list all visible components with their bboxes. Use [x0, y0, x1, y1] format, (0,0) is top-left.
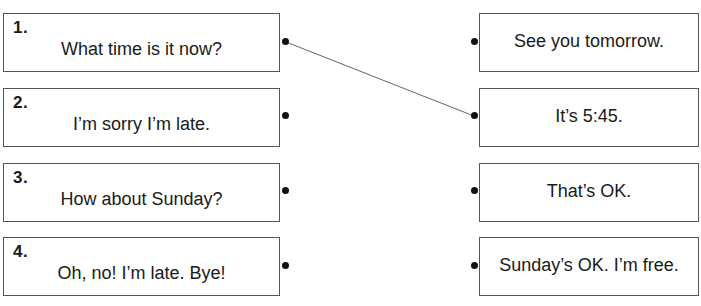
item-number: 2. — [13, 93, 28, 113]
item-text: Oh, no! I’m late. Bye! — [4, 263, 279, 284]
item-number: 3. — [13, 168, 28, 188]
left-item-4: 4. Oh, no! I’m late. Bye! — [3, 237, 280, 296]
left-dot-3[interactable] — [282, 187, 289, 194]
connector-line-1-to-2 — [286, 42, 474, 116]
item-text: How about Sunday? — [4, 189, 279, 210]
left-item-2: 2. I’m sorry I’m late. — [3, 88, 280, 147]
item-text: I’m sorry I’m late. — [4, 114, 279, 135]
right-dot-3[interactable] — [471, 187, 478, 194]
left-item-1: 1. What time is it now? — [3, 13, 280, 72]
item-text: It’s 5:45. — [480, 106, 698, 127]
left-item-3: 3. How about Sunday? — [3, 163, 280, 222]
right-item-4: Sunday’s OK. I’m free. — [479, 237, 699, 296]
left-dot-2[interactable] — [282, 112, 289, 119]
item-text: Sunday’s OK. I’m free. — [480, 255, 698, 276]
item-number: 4. — [13, 242, 28, 262]
item-text: See you tomorrow. — [480, 31, 698, 52]
right-dot-2[interactable] — [471, 112, 478, 119]
right-dot-1[interactable] — [471, 38, 478, 45]
right-item-1: See you tomorrow. — [479, 13, 699, 72]
right-item-3: That’s OK. — [479, 163, 699, 222]
right-item-2: It’s 5:45. — [479, 88, 699, 147]
item-number: 1. — [13, 18, 28, 38]
item-text: That’s OK. — [480, 181, 698, 202]
left-dot-4[interactable] — [282, 262, 289, 269]
right-dot-4[interactable] — [471, 262, 478, 269]
left-dot-1[interactable] — [282, 38, 289, 45]
item-text: What time is it now? — [4, 39, 279, 60]
